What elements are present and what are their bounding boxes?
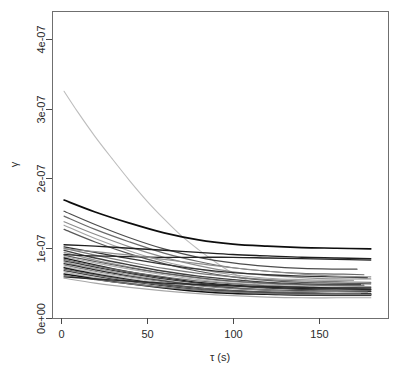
y-tick-label-4: 4e-07 <box>35 25 47 53</box>
semivariogram-plot: 0501001500e+001e-072e-073e-074e-07τ (s)γ <box>0 0 397 376</box>
y-axis-title: γ <box>8 161 20 167</box>
x-axis-title: τ (s) <box>210 351 230 363</box>
y-tick-label-0: 0e+00 <box>35 303 47 334</box>
chart-figure: 0501001500e+001e-072e-073e-074e-07τ (s)γ <box>0 0 397 376</box>
y-tick-label-2: 2e-07 <box>35 164 47 192</box>
y-tick-label-3: 3e-07 <box>35 95 47 123</box>
x-tick-label-1: 50 <box>141 328 153 340</box>
x-tick-label-2: 100 <box>224 328 242 340</box>
x-tick-label-0: 0 <box>58 328 64 340</box>
plot-background <box>0 0 397 376</box>
y-tick-label-1: 1e-07 <box>35 234 47 262</box>
x-tick-label-3: 150 <box>310 328 328 340</box>
